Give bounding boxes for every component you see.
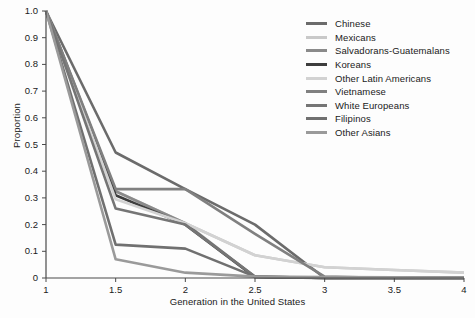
legend-item-label: Mexicans bbox=[335, 32, 376, 43]
x-tick-label: 2.5 bbox=[243, 284, 267, 295]
legend-item-label: Filipinos bbox=[335, 113, 371, 124]
legend-item-salvadorans-guatemalans[interactable]: Salvadorans-Guatemalans bbox=[306, 44, 450, 58]
legend-item-label: Other Latin Americans bbox=[335, 73, 431, 84]
legend-swatch-icon bbox=[306, 117, 327, 120]
legend-item-koreans[interactable]: Koreans bbox=[306, 58, 450, 72]
x-tick-label: 2 bbox=[173, 284, 197, 295]
y-tick-label: 1.0 bbox=[12, 5, 38, 16]
legend-swatch-icon bbox=[306, 36, 327, 39]
y-tick-label: 0 bbox=[12, 272, 38, 283]
legend-item-label: Vietnamese bbox=[335, 86, 386, 97]
y-tick-label: 0.9 bbox=[12, 32, 38, 43]
legend-item-label: Other Asians bbox=[335, 127, 391, 138]
legend-item-mexicans[interactable]: Mexicans bbox=[306, 31, 450, 45]
y-axis-title: Proportion bbox=[11, 86, 22, 166]
y-tick-label: 0.8 bbox=[12, 58, 38, 69]
y-tick-label: 0.2 bbox=[12, 219, 38, 230]
legend-item-chinese[interactable]: Chinese bbox=[306, 17, 450, 31]
legend-swatch-icon bbox=[306, 22, 327, 25]
legend-item-label: Salvadorans-Guatemalans bbox=[335, 45, 450, 56]
x-tick-label: 4 bbox=[452, 284, 475, 295]
legend-item-label: Chinese bbox=[335, 18, 371, 29]
legend-item-filipinos[interactable]: Filipinos bbox=[306, 112, 450, 126]
x-tick-label: 1 bbox=[34, 284, 58, 295]
y-tick-label: 0.3 bbox=[12, 192, 38, 203]
y-tick-label: 0.1 bbox=[12, 245, 38, 256]
x-tick-label: 3.5 bbox=[382, 284, 406, 295]
legend-swatch-icon bbox=[306, 49, 327, 52]
legend-swatch-icon bbox=[306, 90, 327, 93]
x-axis-title: Generation in the United States bbox=[0, 296, 475, 307]
legend-swatch-icon bbox=[306, 77, 327, 80]
legend-item-vietnamese[interactable]: Vietnamese bbox=[306, 85, 450, 99]
legend-swatch-icon bbox=[306, 104, 327, 107]
legend-swatch-icon bbox=[306, 63, 327, 66]
x-tick-label: 3 bbox=[313, 284, 337, 295]
legend-item-other-asians[interactable]: Other Asians bbox=[306, 126, 450, 140]
x-tick-label: 1.5 bbox=[104, 284, 128, 295]
legend-item-white-europeans[interactable]: White Europeans bbox=[306, 99, 450, 113]
y-tick-label: 0.4 bbox=[12, 165, 38, 176]
legend-swatch-icon bbox=[306, 131, 327, 134]
chart-legend: ChineseMexicansSalvadorans-GuatemalansKo… bbox=[306, 17, 450, 139]
chart-container: 00.10.20.30.40.50.60.70.80.91.0 11.522.5… bbox=[0, 0, 475, 318]
legend-item-label: Koreans bbox=[335, 59, 371, 70]
legend-item-label: White Europeans bbox=[335, 100, 409, 111]
legend-item-other-latin-americans[interactable]: Other Latin Americans bbox=[306, 71, 450, 85]
